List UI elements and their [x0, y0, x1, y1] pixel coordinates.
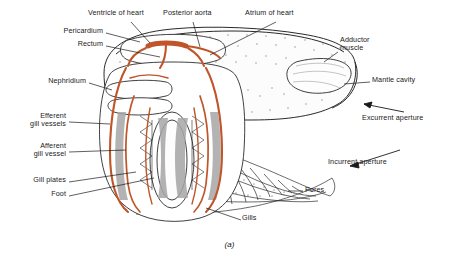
label-foot: Foot — [6, 190, 66, 198]
label-posterior-aorta: Posterior aorta — [163, 9, 212, 17]
label-ventricle-of-heart: Ventricle of heart — [88, 9, 144, 17]
nephridium-lower — [108, 98, 172, 115]
label-efferent-gill-vessels: Efferent gill vessels — [6, 112, 66, 128]
label-adductor-muscle: Adductor muscle — [340, 36, 370, 52]
label-gills: Gills — [242, 214, 256, 222]
label-incurrent-aperture: Incurrent aperture — [328, 158, 387, 166]
label-afferent-gill-vessel: Afferent gill vessel — [6, 142, 66, 158]
label-rectum: Rectum — [33, 40, 103, 48]
label-atrium-of-heart: Atrium of heart — [245, 9, 294, 17]
label-gill-plates: Gill plates — [6, 176, 66, 184]
pericardium-outline — [121, 34, 226, 66]
label-mantle-cavity: Mantle cavity — [372, 76, 415, 84]
label-pericardium: Pericardium — [33, 27, 103, 35]
figure-caption: (a) — [0, 240, 459, 249]
anatomy-figure: Ventricle of heart Posterior aorta Atriu… — [0, 0, 459, 263]
label-nephridium: Nephridium — [16, 77, 86, 85]
label-pores: Pores — [305, 186, 324, 194]
adductor-muscle-shape — [287, 59, 351, 94]
label-excurrent-aperture: Excurrent aperture — [362, 114, 423, 122]
